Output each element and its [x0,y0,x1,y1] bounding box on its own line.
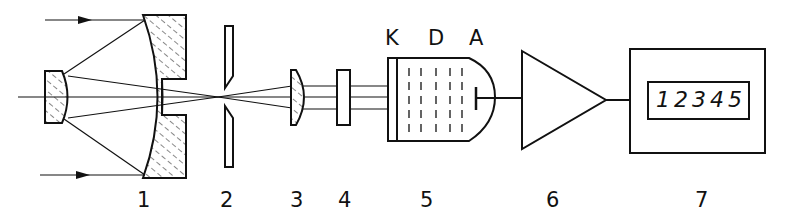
collimating-lens [291,70,304,125]
anode-label: A [469,28,483,49]
photomultiplier-tube [388,58,495,141]
display-value: 12345 [656,89,746,111]
component-label-7: 7 [695,190,708,211]
optical-setup-diagram: K D A 12345 1 2 3 4 5 6 7 [0,0,785,222]
dynodes-label: D [428,28,444,49]
component-label-4: 4 [338,190,351,211]
component-label-6: 6 [546,190,559,211]
cathode-label: K [385,28,399,49]
component-label-1: 1 [137,190,150,211]
filter [337,70,350,125]
component-label-2: 2 [220,190,233,211]
slit-upper [225,26,233,88]
slit-lower [225,106,233,167]
component-label-3: 3 [290,190,303,211]
secondary-mirror [45,71,68,123]
component-label-5: 5 [420,190,433,211]
amplifier [522,51,606,149]
